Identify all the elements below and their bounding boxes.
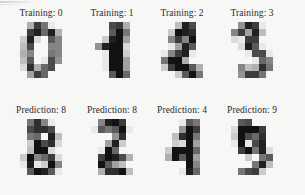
panel-title: Training:3 xyxy=(218,8,286,19)
panel-label-prefix: Training xyxy=(19,8,52,18)
panel-label-prefix: Prediction xyxy=(157,105,197,115)
panel-prediction-2: Prediction:4 xyxy=(148,105,216,195)
panel-label-separator: : xyxy=(267,105,270,115)
panel-label-value: 2 xyxy=(199,8,204,18)
panel-label-prefix: Prediction xyxy=(227,105,267,115)
digit-image-wrapper xyxy=(218,22,286,98)
panel-title: Training:1 xyxy=(78,8,146,19)
digit-image-wrapper xyxy=(7,22,75,98)
panel-prediction-3: Prediction:9 xyxy=(218,105,286,195)
digit-image-wrapper xyxy=(148,119,216,195)
panel-title: Prediction:9 xyxy=(218,105,286,116)
panel-training-3: Training:3 xyxy=(218,8,286,100)
panel-title: Training:0 xyxy=(7,8,75,19)
panel-label-value: 9 xyxy=(272,105,277,115)
panel-label-prefix: Training xyxy=(160,8,193,18)
digit-one xyxy=(95,22,130,78)
panel-training-0: Training:0 xyxy=(7,8,75,100)
digit-two xyxy=(161,22,203,78)
panel-label-separator: : xyxy=(56,105,59,115)
prediction-row: Prediction:8 Prediction:8 Prediction:4 P… xyxy=(0,105,305,195)
digit-image-wrapper xyxy=(148,22,216,98)
panel-title: Prediction:8 xyxy=(78,105,146,116)
panel-title: Prediction:4 xyxy=(148,105,216,116)
panel-label-prefix: Training xyxy=(90,8,123,18)
panel-label-value: 1 xyxy=(129,8,134,18)
panel-title: Prediction:8 xyxy=(7,105,75,116)
panel-label-value: 8 xyxy=(61,105,66,115)
panel-label-prefix: Prediction xyxy=(16,105,56,115)
digit-image-wrapper xyxy=(218,119,286,195)
panel-label-separator: : xyxy=(194,8,197,18)
panel-label-separator: : xyxy=(127,105,130,115)
panel-prediction-1: Prediction:8 xyxy=(78,105,146,195)
panel-label-separator: : xyxy=(264,8,267,18)
panel-label-separator: : xyxy=(124,8,127,18)
digit-three xyxy=(231,22,273,78)
panel-label-prefix: Prediction xyxy=(87,105,127,115)
digit-four xyxy=(165,119,200,175)
panel-training-1: Training:1 xyxy=(78,8,146,100)
digit-image-wrapper xyxy=(7,119,75,195)
panel-label-value: 4 xyxy=(202,105,207,115)
panel-label-separator: : xyxy=(197,105,200,115)
digit-eight-b xyxy=(91,119,133,175)
panel-label-value: 3 xyxy=(269,8,274,18)
panel-prediction-0: Prediction:8 xyxy=(7,105,75,195)
panel-label-value: 8 xyxy=(132,105,137,115)
digits-figure: Training:0 Training:1 Training:2 Trainin… xyxy=(0,0,305,195)
training-row: Training:0 Training:1 Training:2 Trainin… xyxy=(0,8,305,105)
panel-title: Training:2 xyxy=(148,8,216,19)
digit-eight-a xyxy=(20,119,62,175)
panel-training-2: Training:2 xyxy=(148,8,216,100)
digit-zero xyxy=(20,22,62,78)
digit-nine xyxy=(231,119,273,175)
panel-label-prefix: Training xyxy=(230,8,263,18)
panel-label-value: 0 xyxy=(58,8,63,18)
digit-image-wrapper xyxy=(78,22,146,98)
digit-image-wrapper xyxy=(78,119,146,195)
panel-label-separator: : xyxy=(53,8,56,18)
